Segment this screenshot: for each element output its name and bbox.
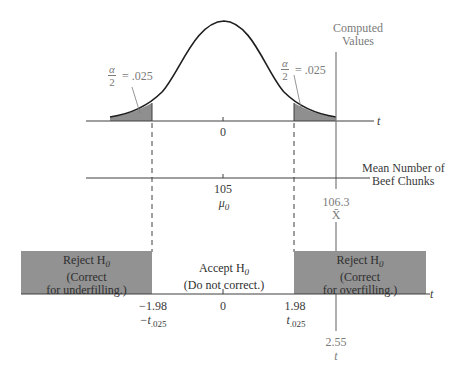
right-reject-line3: for overfilling.) [323, 283, 398, 297]
right-reject-line2: (Correct [340, 270, 380, 284]
left-alpha-value: = .025 [122, 69, 153, 84]
left-crit-sub: .025 [151, 319, 167, 329]
accept-text: Accept H0 (Do not correct.) [176, 262, 272, 292]
left-reject-line1: Reject H [63, 253, 105, 267]
mu-subscript: 0 [225, 202, 230, 212]
mean-axis-label-line1: Mean Number of [362, 161, 445, 175]
right-reject-sub: 0 [379, 259, 384, 269]
right-critical-symbol: t.025 [282, 314, 310, 331]
right-alpha-fraction: α 2 [281, 57, 289, 82]
right-crit-sub: .025 [290, 319, 306, 329]
left-crit-t: −t [139, 313, 150, 327]
computed-values-label: Computed Values [333, 22, 383, 48]
accept-line2: (Do not correct.) [184, 278, 264, 292]
mean-axis-label: Mean Number of Beef Chunks [362, 162, 445, 188]
right-reject-text: Reject H0 (Correct for overfilling.) [294, 254, 426, 297]
left-critical-symbol: −t.025 [136, 314, 170, 331]
hypothesized-mean-symbol: μ0 [214, 197, 234, 214]
left-reject-text: Reject H0 (Correct for underfilling.) [21, 254, 152, 297]
top-zero-label: 0 [218, 126, 228, 139]
left-alpha-fraction: α 2 [108, 63, 116, 88]
right-alpha-value: = .025 [295, 63, 326, 78]
left-reject-line3: for underfilling.) [46, 283, 127, 297]
alpha-denominator: 2 [281, 70, 289, 82]
right-critical-value: 1.98 [282, 300, 308, 313]
top-t-label: t [377, 115, 380, 128]
sample-mean-symbol: X̄ [328, 209, 344, 222]
alpha-denominator: 2 [108, 76, 116, 88]
left-reject-line2: (Correct [67, 270, 107, 284]
left-reject-sub: 0 [105, 259, 110, 269]
accept-line1: Accept H [199, 261, 245, 275]
accept-sub: 0 [245, 267, 250, 277]
alpha-numerator: α [281, 57, 289, 70]
right-reject-line1: Reject H [337, 253, 379, 267]
computed-label-line1: Computed [333, 21, 383, 35]
computed-t-symbol: t [330, 350, 342, 363]
left-critical-value: −1.98 [136, 300, 170, 313]
hypothesized-mean-value: 105 [210, 183, 236, 196]
computed-t-value: 2.55 [322, 336, 350, 349]
decision-t-label: t [430, 288, 433, 301]
computed-label-line2: Values [342, 34, 374, 48]
decision-zero-label: 0 [218, 300, 228, 313]
alpha-numerator: α [108, 63, 116, 76]
mean-axis-label-line2: Beef Chunks [362, 174, 434, 188]
